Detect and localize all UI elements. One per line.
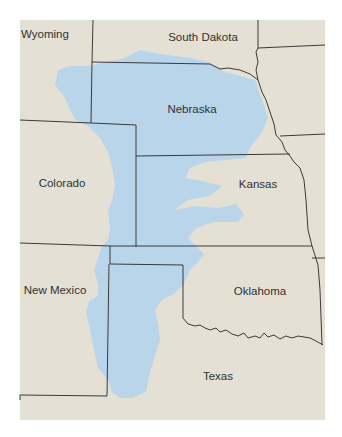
state-label-colorado: Colorado bbox=[39, 177, 86, 189]
state-label-wyoming: Wyoming bbox=[21, 28, 69, 40]
state-label-south-dakota: South Dakota bbox=[168, 31, 238, 43]
state-label-new-mexico: New Mexico bbox=[24, 284, 87, 296]
state-label-oklahoma: Oklahoma bbox=[234, 285, 286, 297]
state-label-nebraska: Nebraska bbox=[167, 103, 216, 115]
map bbox=[0, 0, 342, 437]
state-label-kansas: Kansas bbox=[239, 178, 277, 190]
state-label-texas: Texas bbox=[203, 370, 233, 382]
